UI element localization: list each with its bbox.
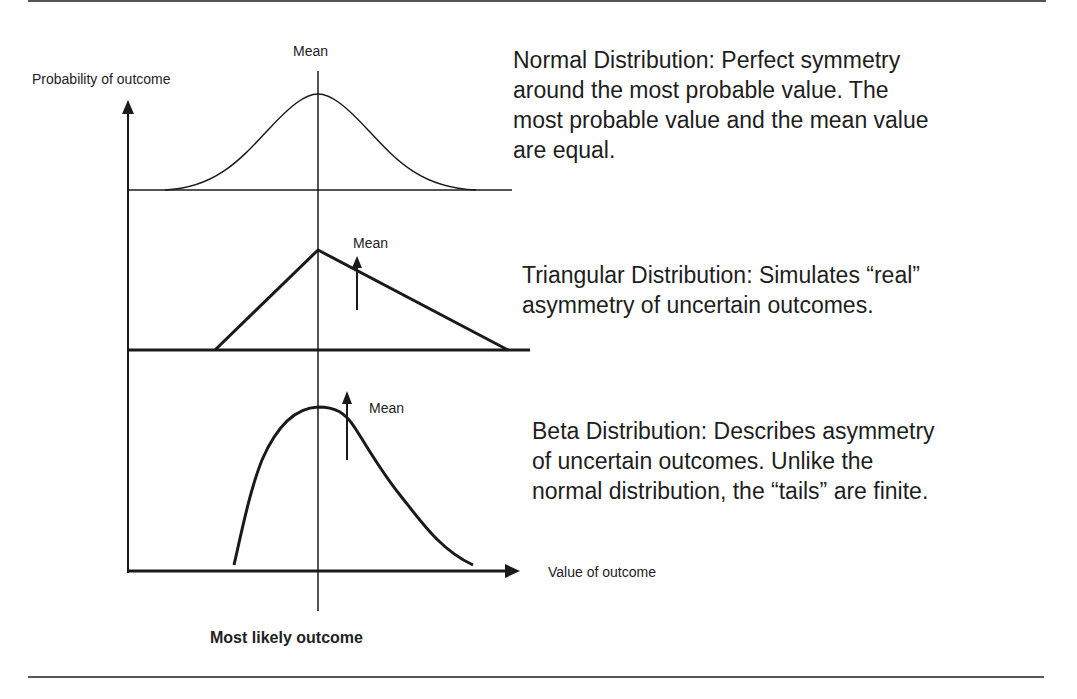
- mean-triangular-label: Mean: [353, 235, 388, 251]
- triangular-description-line: asymmetry of uncertain outcomes.: [522, 290, 920, 320]
- beta-description-line: of uncertain outcomes. Unlike the: [532, 446, 935, 476]
- normal-description-line: around the most probable value. The: [513, 75, 929, 105]
- triangular-curve: [215, 250, 508, 350]
- triangular-description: Triangular Distribution: Simulates “real…: [522, 260, 920, 320]
- normal-description: Normal Distribution: Perfect symmetry ar…: [513, 45, 929, 165]
- beta-mean-arrow-icon: [342, 391, 352, 404]
- normal-description-line: most probable value and the mean value: [513, 105, 929, 135]
- normal-description-line: are equal.: [513, 135, 929, 165]
- normal-curve: [165, 94, 476, 190]
- mean-beta-label: Mean: [369, 400, 404, 416]
- y-axis-arrow-icon: [122, 100, 134, 114]
- x-axis-arrow-icon: [505, 564, 520, 578]
- most-likely-outcome-label: Most likely outcome: [210, 629, 363, 647]
- beta-description-line: Beta Distribution: Describes asymmetry: [532, 416, 935, 446]
- triangular-mean-arrow-icon: [352, 256, 362, 268]
- beta-description: Beta Distribution: Describes asymmetry o…: [532, 416, 935, 506]
- triangular-description-line: Triangular Distribution: Simulates “real…: [522, 260, 920, 290]
- beta-description-line: normal distribution, the “tails” are fin…: [532, 476, 935, 506]
- normal-description-line: Normal Distribution: Perfect symmetry: [513, 45, 929, 75]
- y-axis-label: Probability of outcome: [32, 71, 171, 87]
- mean-top-label: Mean: [293, 43, 328, 59]
- x-axis-label: Value of outcome: [548, 564, 656, 580]
- beta-curve: [234, 407, 473, 565]
